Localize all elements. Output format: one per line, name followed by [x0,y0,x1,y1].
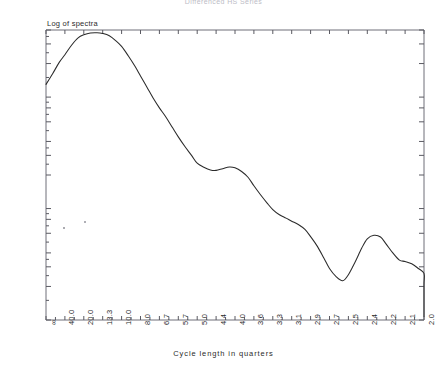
x-axis-label: Cycle length in quarters [0,349,447,358]
axis-tick-marks [46,30,424,320]
spectra-line-series [46,33,424,317]
axis-frame [46,30,424,320]
plot-canvas [0,0,447,374]
scan-speckle [84,221,86,223]
spectral-density-figure: Differenced HS Series Log of spectra 4.0… [0,0,447,374]
scan-speckle [63,227,65,229]
